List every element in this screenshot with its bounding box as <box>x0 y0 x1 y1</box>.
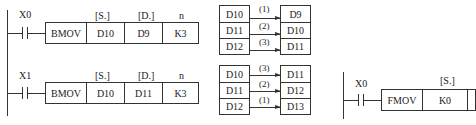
contact-label: X1 <box>19 71 31 81</box>
instruction-block: FMOV K0 <box>381 89 476 111</box>
rung-wire <box>7 33 22 34</box>
instruction-mnemonic: BMOV <box>46 23 86 43</box>
register: D10 <box>220 6 249 22</box>
arrow-icon <box>250 34 280 35</box>
instruction-block: BMOV D10 D11 K3 <box>45 82 199 104</box>
destination-register-table: D9 D10 D11 <box>280 5 311 55</box>
header-count: n <box>179 11 184 21</box>
rung-wire <box>343 100 358 101</box>
instruction-mnemonic: FMOV <box>382 90 422 110</box>
operand-count: K3 <box>162 83 198 103</box>
register: D11 <box>220 82 249 98</box>
register: D12 <box>220 38 249 54</box>
register: D9 <box>281 6 310 22</box>
operand-source: K0 <box>422 90 468 110</box>
arrow-icon <box>250 18 280 19</box>
operand-source: D10 <box>86 83 124 103</box>
destination-register-table: D11 D12 D13 <box>280 65 311 115</box>
right-power-rail <box>343 72 344 119</box>
header-source: [S.] <box>95 71 110 81</box>
instruction-mnemonic: BMOV <box>46 83 86 103</box>
operand-source: D10 <box>86 23 124 43</box>
header-count: n <box>179 71 184 81</box>
transfer-order-label: (1) <box>259 5 270 14</box>
source-register-table: D10 D11 D12 <box>219 5 250 55</box>
register: D10 <box>281 22 310 38</box>
header-destination: [D.] <box>138 71 154 81</box>
register: D11 <box>220 22 249 38</box>
arrow-icon <box>250 50 280 51</box>
register: D12 <box>220 98 249 114</box>
register: D11 <box>281 38 310 54</box>
transfer-order-label: (3) <box>259 38 270 47</box>
arrow-icon <box>250 107 280 108</box>
register: D12 <box>281 82 310 98</box>
operand-destination: D11 <box>124 83 162 103</box>
header-source: [S.] <box>440 76 455 86</box>
arrow-icon <box>250 75 280 76</box>
operand-destination: D9 <box>124 23 162 43</box>
arrow-icon <box>250 91 280 92</box>
transfer-order-label: (1) <box>259 96 270 105</box>
register: D13 <box>281 98 310 114</box>
header-destination: [D.] <box>138 11 154 21</box>
register: D11 <box>281 66 310 82</box>
transfer-order-label: (2) <box>259 80 270 89</box>
register: D10 <box>220 66 249 82</box>
rung-wire <box>28 93 45 94</box>
contact-label: X0 <box>19 10 31 20</box>
rung-wire <box>364 100 381 101</box>
header-source: [S.] <box>95 11 110 21</box>
instruction-block: BMOV D10 D9 K3 <box>45 22 199 44</box>
operand-count: K3 <box>162 23 198 43</box>
transfer-order-label: (3) <box>259 64 270 73</box>
contact-label: X0 <box>355 79 367 89</box>
rung-wire <box>7 93 22 94</box>
transfer-order-label: (2) <box>259 22 270 31</box>
source-register-table: D10 D11 D12 <box>219 65 250 115</box>
rung-wire <box>28 33 45 34</box>
left-power-rail <box>7 10 8 116</box>
